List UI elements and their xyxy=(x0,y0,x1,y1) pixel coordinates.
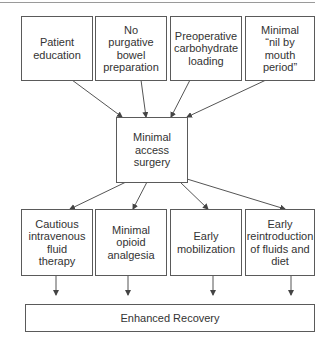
output-label: Cautious intravenous fluid therapy xyxy=(29,218,86,268)
input-label: Preoperative carbohydrate loading xyxy=(174,30,238,68)
output-box-iv-fluid: Cautious intravenous fluid therapy xyxy=(21,209,93,276)
output-box-early-reintroduction: Early reintroduction of fluids and diet xyxy=(245,209,315,276)
arrow-input-2 xyxy=(141,80,146,117)
output-box-early-mobilization: Early mobilization xyxy=(170,209,242,276)
result-box-enhanced-recovery: Enhanced Recovery xyxy=(25,304,315,332)
output-label: Early mobilization xyxy=(177,230,235,255)
input-box-no-bowel-prep: No purgative bowel preparation xyxy=(95,16,167,81)
input-box-patient-education: Patient education xyxy=(21,16,93,81)
output-box-opioid-analgesia: Minimal opioid analgesia xyxy=(95,209,167,276)
center-box-minimal-access-surgery: Minimal access surgery xyxy=(116,117,188,183)
input-box-carb-loading: Preoperative carbohydrate loading xyxy=(170,16,242,81)
input-label: No purgative bowel preparation xyxy=(103,24,159,74)
input-label: Minimal “nil by mouth period” xyxy=(261,24,299,74)
result-label: Enhanced Recovery xyxy=(120,312,219,325)
arrow-output-1 xyxy=(70,182,126,209)
arrow-output-2 xyxy=(133,182,147,209)
input-label: Patient education xyxy=(33,36,81,61)
arrow-output-4 xyxy=(187,179,285,209)
arrow-input-1 xyxy=(72,80,122,117)
arrow-input-4 xyxy=(187,80,266,117)
output-label: Early reintroduction of fluids and diet xyxy=(247,218,314,268)
input-box-nil-by-mouth: Minimal “nil by mouth period” xyxy=(245,16,315,81)
output-label: Minimal opioid analgesia xyxy=(107,224,154,262)
center-label: Minimal access surgery xyxy=(133,131,171,169)
arrow-input-3 xyxy=(171,80,190,117)
arrow-output-3 xyxy=(180,182,208,209)
